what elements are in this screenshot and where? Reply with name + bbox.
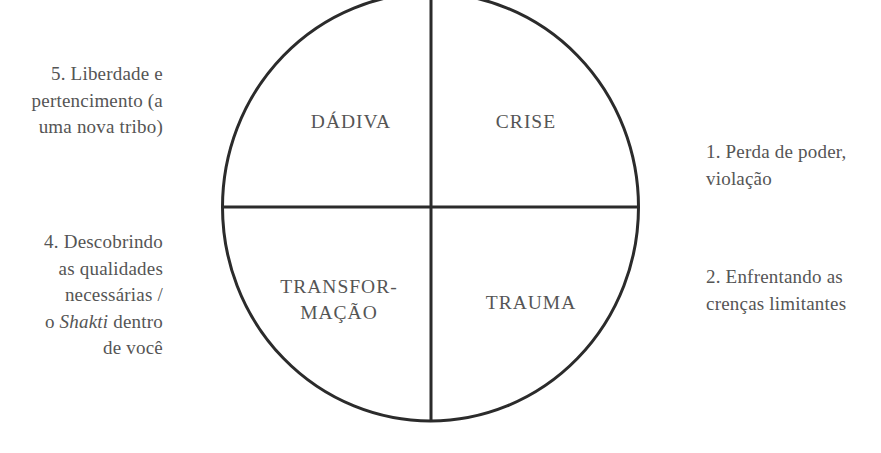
- stage-1-label: 1. Perda de poder, violação: [706, 139, 847, 192]
- quadrant-crise: CRISE: [496, 109, 556, 135]
- quadrant-label-line: TRANSFOR-: [280, 274, 397, 300]
- stage-text-line: 5. Liberdade e: [32, 61, 163, 88]
- stage-text-line: 1. Perda de poder,: [706, 139, 847, 166]
- quadrant-label: CRISE: [496, 109, 556, 135]
- quadrant-label: TRAUMA: [486, 290, 577, 316]
- stage-text-line: necessárias /: [44, 282, 163, 309]
- stage-5-label: 5. Liberdade e pertencimento (a uma nova…: [32, 61, 163, 141]
- stage-text-line: crenças limitantes: [706, 291, 846, 318]
- stage-4-label: 4. Descobrindo as qualidades necessárias…: [44, 229, 163, 362]
- stage-text-line: 4. Descobrindo: [44, 229, 163, 256]
- stage-text-line: o Shakti dentro: [44, 309, 163, 336]
- stage-text-line: 2. Enfrentando as: [706, 264, 846, 291]
- quadrant-transformacao: TRANSFOR- MAÇÃO: [280, 274, 397, 326]
- stage-text-line: as qualidades: [44, 256, 163, 283]
- stage-text-line: pertencimento (a: [32, 88, 163, 115]
- quadrant-label: DÁDIVA: [311, 109, 391, 135]
- quadrant-label-line: MAÇÃO: [280, 300, 397, 326]
- cycle-diagram: DÁDIVA CRISE TRANSFOR- MAÇÃO TRAUMA 5. L…: [0, 0, 881, 453]
- stage-text-line: violação: [706, 166, 847, 193]
- stage-text-fragment: dentro: [108, 311, 163, 332]
- stage-2-label: 2. Enfrentando as crenças limitantes: [706, 264, 846, 317]
- stage-text-line: uma nova tribo): [32, 114, 163, 141]
- stage-text-italic: Shakti: [60, 311, 109, 332]
- quadrant-trauma: TRAUMA: [486, 290, 577, 316]
- stage-text-line: de você: [44, 335, 163, 362]
- stage-text-fragment: o: [45, 311, 60, 332]
- quadrant-dadiva: DÁDIVA: [311, 109, 391, 135]
